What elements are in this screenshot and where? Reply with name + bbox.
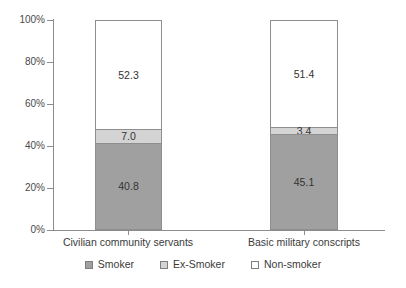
bar-segment-non-smoker: 51.4	[270, 20, 338, 128]
x-axis-tick-0	[128, 230, 129, 235]
y-axis-label-0: 0%	[3, 225, 45, 235]
legend-label-non-smoker: Non-smoker	[264, 259, 321, 270]
legend-label-ex-smoker: Ex-Smoker	[173, 259, 225, 270]
legend-item-non-smoker: Non-smoker	[251, 259, 321, 270]
bar-segment-non-smoker-value: 51.4	[294, 69, 314, 80]
y-axis-tick-100	[47, 20, 53, 21]
stacked-bar-chart: 100% 80% 60% 40% 20% 0% 52.3 7.0 40.8	[0, 0, 406, 288]
bar-basic-military-conscripts: 51.4 3.4 45.1	[270, 20, 338, 230]
y-axis-label-60: 60%	[3, 99, 45, 109]
bar-civilian-community-servants: 52.3 7.0 40.8	[95, 20, 162, 230]
y-axis-tick-60	[47, 104, 53, 105]
bar-segment-non-smoker-value: 52.3	[118, 70, 138, 81]
bar-segment-smoker: 40.8	[95, 143, 162, 230]
y-axis-line	[53, 19, 54, 231]
bar-segment-smoker: 45.1	[270, 134, 338, 230]
legend-swatch-smoker-icon	[85, 261, 93, 269]
x-axis-category-label-1: Basic military conscripts	[219, 236, 389, 248]
y-axis-label-20: 20%	[3, 183, 45, 193]
y-axis-tick-40	[47, 146, 53, 147]
bar-segment-ex-smoker-value: 7.0	[121, 131, 136, 142]
legend-item-smoker: Smoker	[85, 259, 134, 270]
y-axis-label-80: 80%	[3, 57, 45, 67]
x-axis-line	[53, 230, 385, 231]
y-axis-tick-0	[47, 230, 53, 231]
y-axis-label-100: 100%	[3, 15, 45, 25]
y-axis-tick-80	[47, 62, 53, 63]
legend-swatch-non-smoker-icon	[251, 261, 259, 269]
legend-item-ex-smoker: Ex-Smoker	[160, 259, 225, 270]
legend-label-smoker: Smoker	[98, 259, 134, 270]
legend-swatch-ex-smoker-icon	[160, 261, 168, 269]
bar-segment-ex-smoker: 7.0	[95, 129, 162, 144]
bar-segment-smoker-value: 45.1	[294, 177, 314, 188]
bar-segment-non-smoker: 52.3	[95, 20, 162, 130]
y-axis-tick-20	[47, 188, 53, 189]
chart-legend: Smoker Ex-Smoker Non-smoker	[0, 259, 406, 270]
x-axis-category-label-0: Civilian community servants	[38, 236, 218, 248]
y-axis-label-40: 40%	[3, 141, 45, 151]
x-axis-tick-1	[304, 230, 305, 235]
bar-segment-smoker-value: 40.8	[118, 181, 138, 192]
